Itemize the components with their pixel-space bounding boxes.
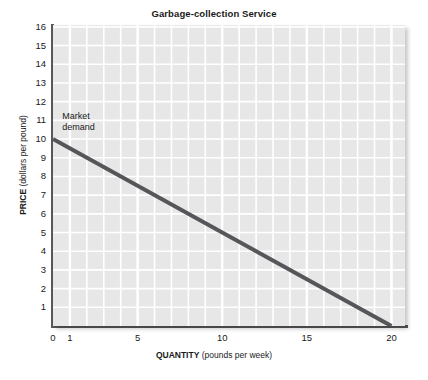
chart-figure: Garbage-collection Service 1234567891011…: [0, 0, 428, 380]
y-tick-label: 15: [14, 41, 46, 51]
y-axis-title-rest: (dollars per pound): [18, 115, 28, 189]
x-axis-title-rest: (pounds per week): [199, 350, 272, 360]
x-tick-label: 10: [207, 333, 237, 343]
y-axis-title-strong: PRICE: [18, 189, 28, 215]
x-tick-label: 20: [376, 333, 406, 343]
plot-area: [53, 25, 405, 326]
market-demand-label: Market demand: [62, 111, 95, 134]
x-tick-label: 15: [292, 333, 322, 343]
y-tick-label: 1: [14, 302, 46, 312]
y-tick-label: 2: [14, 284, 46, 294]
x-tick-label: 1: [55, 333, 85, 343]
x-axis-title: QUANTITY (pounds per week): [0, 350, 428, 360]
y-tick-label: 3: [14, 265, 46, 275]
y-tick-label: 16: [14, 22, 46, 32]
x-axis-title-strong: QUANTITY: [156, 350, 199, 360]
chart-title: Garbage-collection Service: [0, 8, 428, 19]
y-axis-title: PRICE (dollars per pound): [18, 80, 28, 250]
demand-curve: [53, 25, 405, 326]
y-tick-label: 14: [14, 59, 46, 69]
x-tick-label: 5: [123, 333, 153, 343]
